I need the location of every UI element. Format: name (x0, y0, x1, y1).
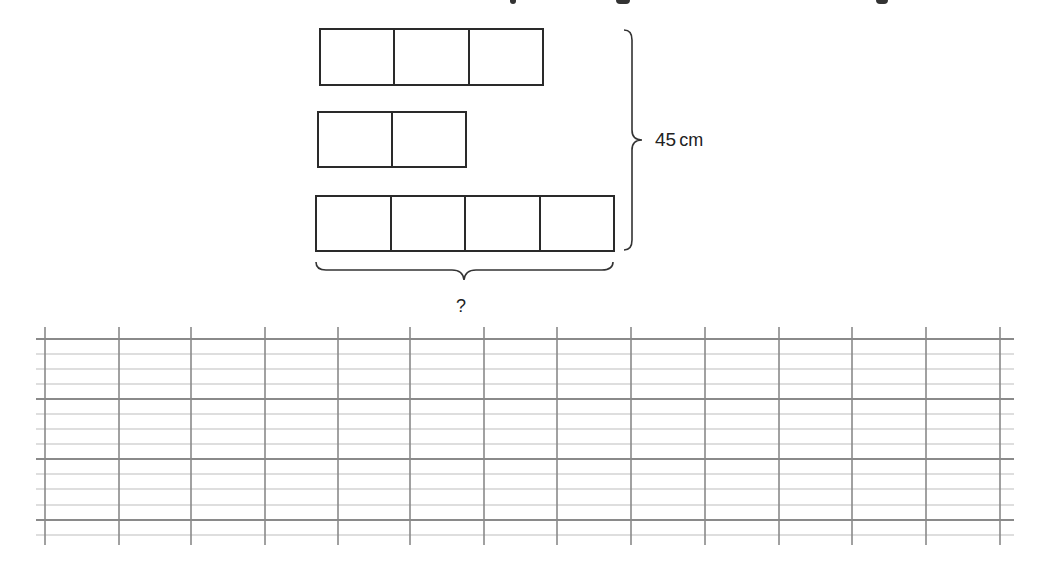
writing-grid (0, 0, 1046, 580)
